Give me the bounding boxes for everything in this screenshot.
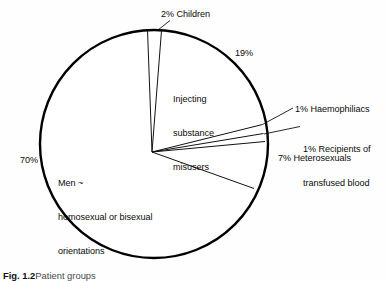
slice-label-men: Men ~ homosexual or bisexual orientation…: [58, 156, 152, 279]
slice-percent-injecting: 19%: [235, 48, 253, 59]
slice-label-injecting: Injecting substance misusers: [173, 72, 214, 195]
slice-label-haemophiliacs: 1% Haemophiliacs: [295, 104, 370, 115]
leader-line-recipients: [264, 127, 300, 135]
slice-label-recipients-line2: transfused blood: [303, 178, 370, 189]
slice-label-men-line3: orientations: [58, 246, 152, 257]
slice-label-heterosexuals: 7% Heterosexuals: [278, 153, 351, 164]
slice-percent-men: 70%: [20, 155, 38, 166]
slice-label-injecting-line3: misusers: [173, 162, 214, 173]
leader-line-haemophiliacs: [263, 108, 294, 125]
slice-label-injecting-line2: substance: [173, 128, 214, 139]
slice-label-children: 2% Children: [161, 9, 210, 20]
figure-caption-text: Patient groups: [35, 270, 95, 281]
figure-container: 2% Children 19% Injecting substance misu…: [0, 0, 388, 281]
figure-caption: Fig. 1.2Patient groups: [3, 270, 96, 281]
leader-line-children: [158, 21, 170, 31]
slice-label-recipients: 1% Recipients of transfused blood: [303, 122, 370, 212]
slice-label-men-line2: homosexual or bisexual: [58, 212, 152, 223]
slice-label-injecting-line1: Injecting: [173, 94, 214, 105]
figure-caption-label: Fig. 1.2: [3, 270, 35, 281]
slice-label-men-line1: Men ~: [58, 178, 152, 189]
